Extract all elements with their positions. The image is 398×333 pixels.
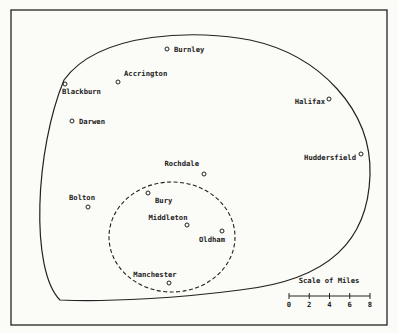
town-marker-icon: [220, 229, 224, 233]
town-marker-icon: [167, 281, 171, 285]
town-oldham: Oldham: [199, 229, 226, 244]
scale-tick-label: 8: [368, 300, 372, 309]
scale-tick-label: 4: [327, 300, 331, 309]
town-halifax: Halifax: [295, 97, 331, 106]
town-middleton: Middleton: [149, 213, 189, 227]
town-bury: Bury: [146, 191, 173, 205]
scale-tick-label: 0: [287, 300, 291, 309]
town-label: Darwen: [79, 117, 105, 126]
town-marker-icon: [86, 205, 90, 209]
town-label: Oldham: [199, 235, 226, 244]
scale-title: Scale of Miles: [299, 276, 360, 285]
town-burnley: Burnley: [165, 45, 205, 54]
town-marker-icon: [202, 172, 206, 176]
town-rochdale: Rochdale: [164, 159, 206, 176]
town-marker-icon: [63, 82, 67, 86]
town-marker-icon: [359, 152, 363, 156]
scale-of-miles: Scale of Miles 02468: [287, 276, 372, 309]
town-marker-icon: [327, 97, 331, 101]
town-darwen: Darwen: [70, 117, 105, 126]
town-label: Blackburn: [62, 87, 101, 96]
town-label: Rochdale: [164, 159, 199, 168]
scale-ticks: 02468: [287, 293, 372, 309]
scale-tick-label: 2: [307, 300, 311, 309]
town-label: Burnley: [174, 45, 205, 54]
town-huddersfield: Huddersfield: [304, 152, 363, 162]
town-map: BurnleyAccringtonBlackburnDarwenHalifaxH…: [0, 0, 398, 333]
town-manchester: Manchester: [133, 270, 177, 285]
town-marker-icon: [116, 80, 120, 84]
outer-region-boundary: [40, 35, 370, 301]
town-label: Bury: [155, 196, 173, 205]
town-label: Halifax: [295, 97, 326, 106]
scale-tick-label: 6: [348, 300, 352, 309]
town-markers: BurnleyAccringtonBlackburnDarwenHalifaxH…: [62, 45, 363, 285]
town-bolton: Bolton: [69, 193, 95, 209]
town-marker-icon: [146, 191, 150, 195]
town-label: Middleton: [149, 213, 188, 222]
town-marker-icon: [185, 223, 189, 227]
town-label: Huddersfield: [304, 153, 356, 162]
town-label: Manchester: [133, 270, 177, 279]
town-accrington: Accrington: [116, 69, 167, 84]
town-label: Bolton: [69, 193, 95, 202]
town-label: Accrington: [124, 69, 167, 78]
town-marker-icon: [70, 119, 74, 123]
town-marker-icon: [165, 47, 169, 51]
town-blackburn: Blackburn: [62, 82, 101, 96]
